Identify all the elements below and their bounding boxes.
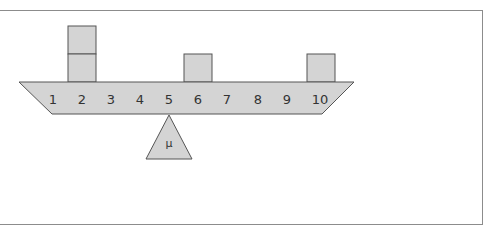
balance-diagram: 1 2 3 4 5 6 7 8 9 10 μ (0, 0, 494, 233)
beam-label-2: 2 (78, 92, 86, 107)
block-position-6 (184, 54, 212, 82)
beam-label-9: 9 (283, 92, 291, 107)
beam-label-7: 7 (223, 92, 231, 107)
block-position-2-lower (68, 54, 96, 82)
beam-label-10: 10 (312, 92, 329, 107)
fulcrum-label: μ (166, 137, 173, 150)
beam-label-6: 6 (194, 92, 202, 107)
beam-label-5: 5 (165, 92, 173, 107)
beam-label-4: 4 (136, 92, 144, 107)
block-position-10 (307, 54, 335, 82)
blocks (68, 26, 335, 82)
beam (19, 82, 354, 114)
beam-label-8: 8 (254, 92, 262, 107)
block-position-2-upper (68, 26, 96, 54)
beam-label-3: 3 (107, 92, 115, 107)
beam-label-1: 1 (49, 92, 57, 107)
